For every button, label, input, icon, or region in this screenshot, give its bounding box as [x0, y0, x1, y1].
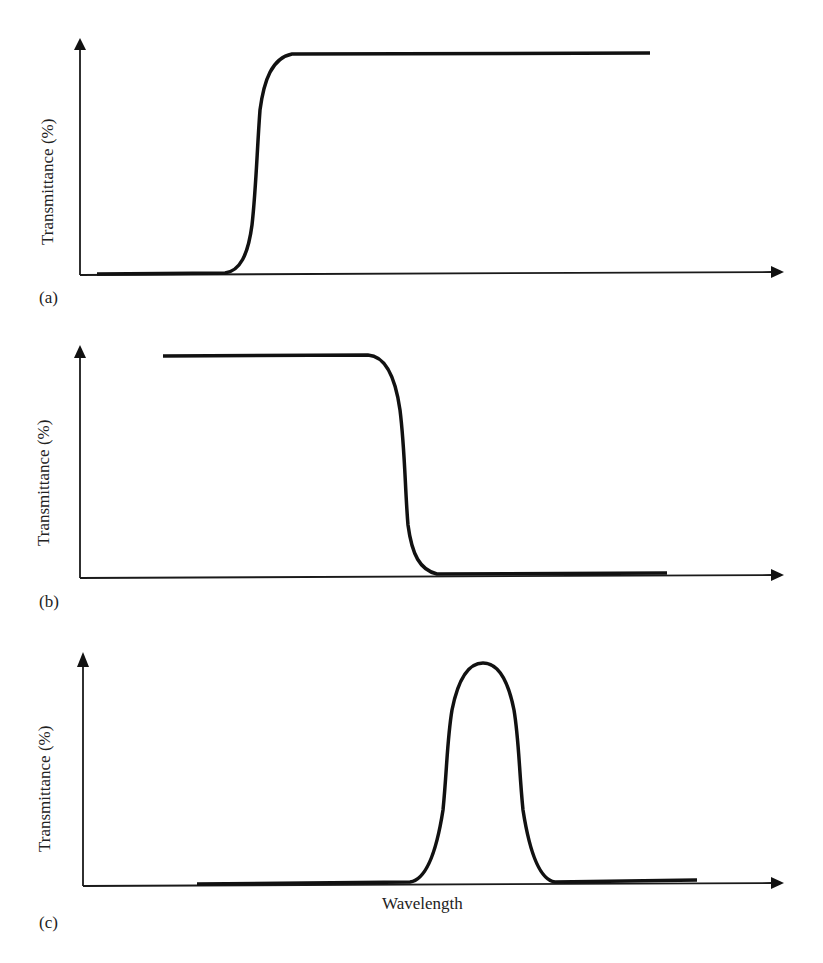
- y-axis-arrow-icon: [74, 345, 86, 358]
- short-pass-curve: [163, 355, 667, 574]
- y-axis: [77, 652, 89, 886]
- panel-a: Transmittance (%) (a): [0, 0, 823, 320]
- panel-a-plot: [0, 0, 823, 320]
- panel-b-plot: [0, 320, 823, 630]
- panel-label: (b): [39, 592, 59, 612]
- panel-label: (c): [39, 913, 58, 933]
- y-axis: [74, 38, 86, 275]
- x-axis-arrow-icon: [771, 877, 784, 889]
- y-axis-arrow-icon: [77, 652, 89, 667]
- panel-b: Transmittance (%) (b): [0, 320, 823, 630]
- band-pass-curve: [197, 663, 697, 884]
- y-axis-label: Transmittance (%): [35, 726, 55, 852]
- panel-c: Transmittance (%) Wavelength (c): [0, 630, 823, 963]
- panel-label: (a): [39, 288, 58, 308]
- y-axis-label: Transmittance (%): [38, 119, 58, 245]
- y-axis-arrow-icon: [74, 38, 86, 50]
- y-axis: [74, 345, 86, 578]
- x-axis-arrow-icon: [771, 569, 784, 581]
- x-axis-label: Wavelength: [382, 894, 463, 914]
- x-axis-arrow-icon: [771, 266, 784, 278]
- y-axis-label: Transmittance (%): [34, 420, 54, 546]
- long-pass-curve: [97, 53, 650, 274]
